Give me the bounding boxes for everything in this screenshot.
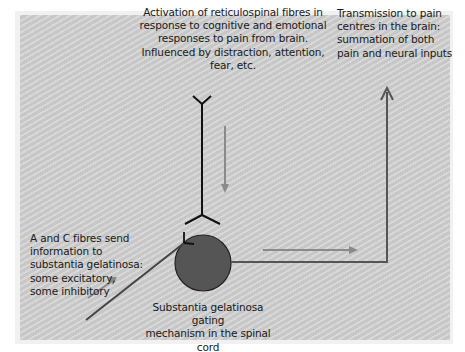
descending-label-line: response to cognitive and emotional [138,19,328,32]
afferent-label-line: some excitatory, [30,272,160,285]
ascending-pathway [231,88,393,262]
descending-label-line: Activation of reticulospinal fibres in [138,6,328,19]
ascending-label-line: pain and neural inputs [337,47,462,60]
afferent-label-line: information to [30,245,160,258]
descending-label: Activation of reticulospinal fibres in r… [138,6,328,72]
output-flow-arrow [263,246,358,254]
afferent-label-line: A and C fibres send [30,232,160,245]
ascending-label: Transmission to pain centres in the brai… [337,7,462,60]
gate-label-line: Substantia gelatinosa gating [138,301,278,327]
reticulospinal-neuron [185,96,220,224]
ascending-label-line: summation of both [337,33,462,46]
gate-label: Substantia gelatinosa gating mechanism i… [138,301,278,352]
descending-label-line: fear, etc. [138,59,328,72]
descending-flow-arrow [221,126,229,193]
ascending-label-line: Transmission to pain [337,7,462,20]
afferent-label-line: substantia gelatinosa: [30,258,160,271]
ascending-label-line: centres in the brain: [337,20,462,33]
gate-label-line: mechanism in the spinal cord [138,327,278,352]
descending-label-line: Influenced by distraction, attention, [138,46,328,59]
afferent-label-line: some inhibitory [30,285,160,298]
afferent-label: A and C fibres send information to subst… [30,232,160,298]
descending-label-line: responses to pain from brain. [138,32,328,45]
